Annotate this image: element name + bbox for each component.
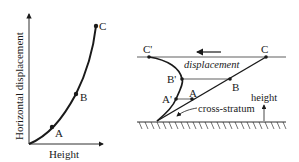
deformed-curve <box>149 57 183 121</box>
label-c: C <box>99 20 106 32</box>
y-axis-label: Horizontal displacement <box>13 32 25 140</box>
point-a-prime <box>174 97 178 101</box>
height-label: height <box>251 92 277 103</box>
point-c <box>264 55 268 59</box>
point-b-prime <box>180 77 184 81</box>
point-b <box>74 92 78 96</box>
label-c-prime: C' <box>143 43 152 55</box>
cross-stratum-label: cross-stratum <box>198 103 255 114</box>
x-axis-label: Height <box>49 148 79 160</box>
displacement-label: displacement <box>184 59 240 70</box>
right-diagram: displacement C' C B' B A' A cross-stratu… <box>137 43 286 129</box>
figure: A B C Height Horizontal displacement dis… <box>0 0 299 162</box>
label-a-prime: A' <box>162 93 172 105</box>
label-c: C <box>261 43 268 55</box>
ground-hatching <box>139 122 286 129</box>
label-b-prime: B' <box>167 73 176 85</box>
left-plot: A B C Height Horizontal displacement <box>13 14 106 160</box>
label-b: B <box>232 81 239 93</box>
point-c <box>94 24 98 28</box>
label-a: A <box>189 87 197 99</box>
label-a: A <box>55 127 63 139</box>
cross-stratum-pointer <box>177 108 197 116</box>
label-b: B <box>80 91 87 103</box>
point-c-prime <box>147 55 151 59</box>
point-a <box>50 125 54 129</box>
